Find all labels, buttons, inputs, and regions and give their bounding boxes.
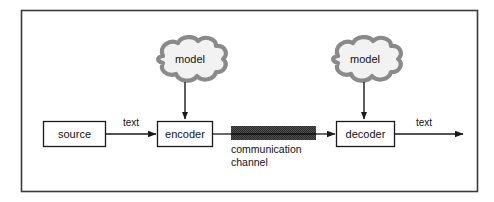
source-label: source bbox=[58, 128, 91, 140]
edge-label-text-out: text bbox=[416, 117, 432, 128]
cloud-label: model bbox=[350, 53, 380, 65]
encoder-node: encoder bbox=[158, 122, 213, 147]
diagram-canvas: model model source text encoder bbox=[0, 0, 494, 202]
decoder-label: decoder bbox=[346, 128, 386, 140]
decoder-model-cloud: model bbox=[333, 37, 401, 81]
source-node: source bbox=[44, 122, 106, 147]
decoder-node: decoder bbox=[337, 122, 395, 147]
channel-label-line1: communication bbox=[231, 143, 302, 155]
channel-label-line2: channel bbox=[231, 156, 268, 168]
cloud-label: model bbox=[175, 53, 205, 65]
channel-bar bbox=[231, 126, 316, 140]
edge-label-text-in: text bbox=[123, 117, 139, 128]
communication-model-diagram: model model source text encoder bbox=[0, 0, 494, 202]
encoder-label: encoder bbox=[165, 128, 205, 140]
encoder-model-cloud: model bbox=[158, 37, 226, 81]
